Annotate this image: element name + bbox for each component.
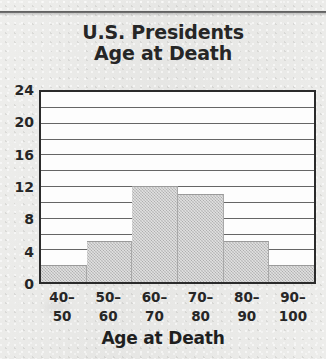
y-tick-16: 16	[0, 147, 34, 163]
y-tick-20: 20	[0, 114, 34, 130]
bar-50–60	[87, 241, 133, 282]
bar-60–70	[132, 186, 178, 282]
x-tick-line-bottom: 100	[270, 307, 316, 326]
y-tick-4: 4	[0, 244, 34, 260]
chart-title-line-1: U.S. Presidents	[0, 22, 326, 43]
x-tick-line-top: 50–	[85, 288, 131, 307]
y-tick-8: 8	[0, 211, 34, 227]
bar-70–80	[178, 194, 224, 282]
x-tick-4: 80–90	[224, 288, 270, 330]
bar-series	[41, 92, 314, 282]
y-axis-tick-labels: 24201612840	[0, 90, 34, 284]
page-top-rule-shadow	[0, 13, 326, 16]
y-tick-0: 0	[0, 276, 34, 292]
x-tick-line-bottom: 50	[39, 307, 85, 326]
x-tick-5: 90–100	[270, 288, 316, 330]
bar-80–90	[224, 241, 270, 282]
x-tick-line-bottom: 80	[178, 307, 224, 326]
plot-area	[39, 90, 316, 284]
x-tick-line-top: 90–	[270, 288, 316, 307]
x-tick-line-top: 60–	[131, 288, 177, 307]
x-tick-0: 40–50	[39, 288, 85, 330]
bar-40–50	[41, 265, 87, 282]
x-tick-2: 60–70	[131, 288, 177, 330]
x-axis-tick-labels: 40–5050–6060–7070–8080–9090–100	[39, 288, 316, 330]
x-tick-1: 50–60	[85, 288, 131, 330]
y-tick-24: 24	[0, 82, 34, 98]
x-tick-line-top: 40–	[39, 288, 85, 307]
x-tick-line-top: 70–	[178, 288, 224, 307]
x-tick-3: 70–80	[178, 288, 224, 330]
x-tick-line-bottom: 60	[85, 307, 131, 326]
plot-frame	[39, 90, 316, 284]
x-tick-line-top: 80–	[224, 288, 270, 307]
x-axis-title: Age at Death	[0, 328, 326, 348]
bar-90–100	[269, 265, 314, 282]
chart-title: U.S. Presidents Age at Death	[0, 22, 326, 64]
x-tick-line-bottom: 70	[131, 307, 177, 326]
y-tick-12: 12	[0, 179, 34, 195]
x-tick-line-bottom: 90	[224, 307, 270, 326]
chart-title-line-2: Age at Death	[0, 43, 326, 64]
